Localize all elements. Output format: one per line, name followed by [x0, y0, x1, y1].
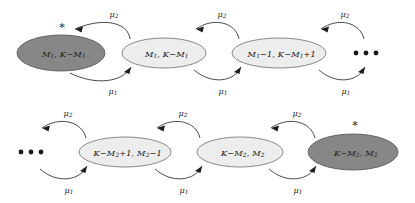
- edge-arrowhead-mu2-bottom-3: [271, 126, 279, 132]
- ellipsis-dot: [354, 51, 359, 56]
- edge-arrowhead-mu1-bottom-2: [195, 166, 202, 173]
- edge-arc-mu1-bottom-3: [269, 166, 316, 179]
- edge-label-mu2-bottom-3: μ2: [293, 109, 302, 119]
- bottom-ellipsis: [19, 150, 44, 155]
- ellipsis-dot: [19, 150, 24, 155]
- edge-label-mu1-bottom-3: μ1: [294, 186, 303, 196]
- ellipsis-dot: [374, 51, 379, 56]
- state-node-top-3[interactable]: M1−1, K−M1+1: [223, 38, 335, 68]
- edge-label-mu2-bottom-1: μ2: [64, 109, 73, 119]
- edge-arrowhead-mu2-top-2: [196, 27, 204, 33]
- edge-label-mu2-top-3: μ2: [341, 10, 350, 20]
- edge-label-mu2-top-2: μ2: [218, 10, 227, 20]
- top-ellipsis: [354, 51, 379, 56]
- edge-label-mu1-bottom-2: μ1: [180, 186, 189, 196]
- edge-arrowhead-mu2-bottom-1: [42, 126, 50, 132]
- state-node-bottom-3[interactable]: K−M2, M2: [308, 134, 398, 170]
- state-transition-svg: μ2 μ1 μ2 μ1 μ2: [0, 0, 415, 203]
- edge-arrowhead-mu2-bottom-2: [157, 126, 165, 132]
- edge-label-mu1-top-2: μ1: [219, 87, 228, 97]
- ellipsis-dot: [29, 150, 34, 155]
- ellipsis-dot: [39, 150, 44, 155]
- edge-arc-mu1-bottom-2: [155, 166, 202, 179]
- edge-label-mu1-top-3: μ1: [342, 87, 351, 97]
- state-node-top-2[interactable]: M1, K−M1: [120, 38, 208, 68]
- edge-arc-mu1-bottom-1: [40, 166, 87, 179]
- edge-label-mu1-top-1: μ1: [109, 87, 118, 97]
- edge-label-mu1-bottom-1: μ1: [65, 186, 74, 196]
- state-label-bottom-1: K−M2+1, M2−1: [69, 148, 181, 158]
- edge-arrowhead-mu2-top-3: [321, 27, 329, 33]
- state-marker-asterisk-top: *: [59, 21, 65, 34]
- state-node-bottom-2[interactable]: K−M2, M2: [196, 137, 284, 167]
- state-node-top-1[interactable]: M1, K−M1: [17, 35, 105, 71]
- edge-arrowhead-mu1-top-2: [234, 67, 241, 74]
- edge-label-mu2-top-1: μ2: [110, 10, 119, 20]
- state-node-bottom-1[interactable]: K−M2+1, M2−1: [69, 137, 181, 167]
- edge-arrowhead-mu1-bottom-1: [80, 166, 87, 173]
- markov-chain-diagram: μ2 μ1 μ2 μ1 μ2: [0, 0, 415, 203]
- state-label-top-3: M1−1, K−M1+1: [223, 49, 335, 59]
- edge-arc-mu1-top-2: [194, 67, 241, 80]
- edge-arc-mu1-top-3: [319, 67, 365, 80]
- ellipsis-dot: [364, 51, 369, 56]
- edge-arrowhead-mu1-top-3: [358, 67, 365, 74]
- edge-arc-mu2-top-1: [75, 22, 130, 39]
- edge-arrowhead-mu1-top-1: [124, 67, 131, 74]
- edge-label-mu2-bottom-2: μ2: [179, 109, 188, 119]
- edge-arrowhead-mu1-bottom-3: [309, 166, 316, 173]
- state-marker-asterisk-bottom: *: [352, 119, 358, 132]
